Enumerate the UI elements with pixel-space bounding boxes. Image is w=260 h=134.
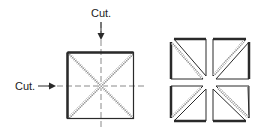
diagram-graphics xyxy=(0,0,260,134)
uncut-square-block xyxy=(38,22,146,129)
right-arrow-icon xyxy=(38,83,56,90)
piece-top-left xyxy=(171,39,206,79)
cutting-diagram: Cut. Cut. xyxy=(0,0,260,134)
down-arrow-icon xyxy=(98,22,105,40)
piece-bottom-left xyxy=(171,86,206,121)
piece-top-right xyxy=(213,39,249,79)
cut-pieces xyxy=(171,39,249,121)
piece-bottom-right xyxy=(213,86,249,121)
